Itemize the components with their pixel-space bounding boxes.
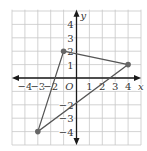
- y-tick-label: −4: [59, 127, 74, 138]
- vertex-point: [61, 48, 67, 54]
- origin-label: O: [65, 81, 73, 92]
- y-tick-label: 3: [67, 33, 73, 44]
- y-axis-label: y: [80, 10, 87, 21]
- y-tick-label: 4: [67, 19, 73, 30]
- vertex-point: [125, 62, 131, 68]
- coordinate-plane: −4−3−212344321−2−3−4Oxy: [0, 0, 147, 151]
- y-axis-down-arrow-icon: [74, 138, 80, 145]
- x-tick-label: 1: [86, 81, 92, 92]
- y-tick-label: 1: [67, 60, 73, 71]
- x-tick-label: 3: [112, 81, 118, 92]
- y-tick-label: −2: [59, 100, 74, 111]
- x-axis-label: x: [138, 81, 144, 92]
- x-tick-label: 4: [125, 81, 131, 92]
- vertex-point: [35, 129, 41, 135]
